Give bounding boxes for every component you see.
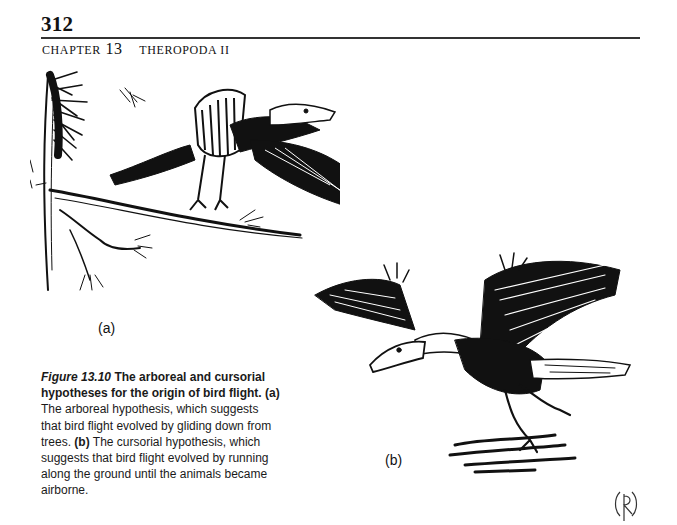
artist-signature-icon (612, 488, 640, 522)
figure-panel-a-illustration (30, 70, 340, 300)
panel-label-b: (b) (385, 452, 402, 468)
running-head: Chapter 13 Theropoda II (42, 40, 230, 58)
figure-number: Figure 13.10 (41, 370, 111, 384)
caption-part-a-label: (a) (265, 386, 280, 400)
header-rule (41, 37, 640, 39)
chapter-label: Chapter (42, 43, 101, 57)
figure-caption: Figure 13.10 The arboreal and cursorial … (41, 369, 281, 499)
caption-part-b-label: (b) (74, 435, 89, 449)
chapter-title: Theropoda II (139, 43, 229, 57)
page-number: 312 (41, 12, 73, 37)
figure-panel-b-illustration (305, 240, 635, 480)
panel-label-a: (a) (98, 320, 115, 336)
chapter-number: 13 (105, 40, 122, 57)
